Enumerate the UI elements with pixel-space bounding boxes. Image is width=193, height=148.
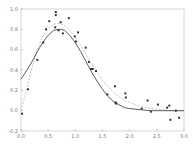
data-point: [75, 41, 77, 43]
scatter-plot-with-fits: 1.00.80.60.40.20.0-0.2 0.00.51.01.52.02.…: [0, 0, 193, 148]
data-point: [57, 29, 59, 31]
data-point: [54, 26, 56, 28]
data-point: [147, 100, 149, 102]
data-point: [77, 31, 79, 33]
data-point: [125, 96, 127, 98]
data-point: [175, 110, 177, 112]
data-point: [178, 117, 180, 119]
x-tick-label: 3.0: [180, 133, 188, 139]
plot-area: [21, 9, 184, 131]
y-tick-label: 0.8: [10, 26, 18, 32]
data-point: [27, 88, 29, 90]
data-point: [88, 61, 90, 63]
data-point: [60, 21, 62, 23]
data-point: [62, 32, 64, 34]
data-point: [85, 47, 87, 49]
data-point: [45, 28, 47, 30]
data-point: [124, 92, 126, 94]
x-tick-label: 1.5: [99, 133, 107, 139]
data-point: [114, 85, 116, 87]
data-point: [48, 20, 50, 22]
y-tick-label: 0.6: [10, 46, 18, 52]
x-tick-label: 2.5: [153, 133, 161, 139]
data-point: [55, 14, 57, 16]
data-point: [157, 104, 159, 106]
data-point: [42, 42, 44, 44]
data-point: [141, 108, 143, 110]
data-point: [55, 11, 57, 13]
data-point: [150, 111, 152, 113]
data-point: [95, 70, 97, 72]
x-tick-label: 0.0: [17, 133, 25, 139]
data-point: [166, 107, 168, 109]
x-tick-label: 1.0: [71, 133, 79, 139]
x-tick-label: 0.5: [44, 133, 52, 139]
data-point: [169, 119, 171, 121]
data-point: [106, 93, 108, 95]
y-tick-label: 0.4: [10, 67, 18, 73]
data-point: [168, 105, 170, 107]
data-point: [68, 17, 70, 19]
data-point: [92, 68, 94, 70]
data-point: [74, 35, 76, 37]
y-tick-label: 1.0: [10, 6, 18, 12]
x-tick-label: 2.0: [126, 133, 134, 139]
y-tick-label: 0.2: [10, 87, 18, 93]
data-point: [115, 103, 117, 105]
data-point: [21, 113, 23, 115]
y-tick-label: 0.0: [10, 107, 18, 113]
data-point: [36, 59, 38, 61]
